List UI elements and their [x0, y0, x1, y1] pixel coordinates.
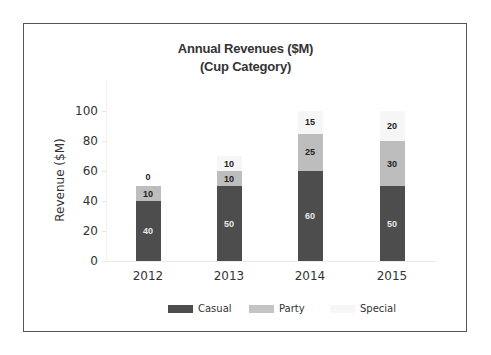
y-tick-mark: [102, 231, 106, 232]
y-tick-mark: [102, 261, 106, 262]
y-tick-mark: [102, 171, 106, 172]
legend-item-casual[interactable]: Casual: [168, 303, 232, 314]
legend-label: Party: [279, 303, 305, 314]
bar-segment-casual[interactable]: 50: [217, 186, 242, 261]
y-tick-mark: [102, 201, 106, 202]
legend-item-party[interactable]: Party: [249, 303, 305, 314]
legend-swatch-party: [249, 305, 274, 313]
legend-item-special[interactable]: Special: [330, 303, 396, 314]
legend-swatch-casual: [168, 305, 193, 313]
bar-segment-casual[interactable]: 50: [380, 186, 405, 261]
y-tick: 60: [60, 164, 98, 178]
bar-label-special: 0: [136, 172, 161, 182]
bar-segment-special[interactable]: 10: [217, 156, 242, 171]
x-tick: 2012: [118, 269, 178, 283]
legend-label: Special: [360, 303, 396, 314]
bar-segment-party[interactable]: 30: [380, 141, 405, 186]
plot-area: Revenue ($M) 0 20 40 60 80 100 40 10 0 5…: [0, 0, 491, 355]
y-tick: 40: [60, 194, 98, 208]
legend-label: Casual: [198, 303, 232, 314]
y-tick-mark: [102, 111, 106, 112]
y-axis-label: Revenue ($M): [53, 138, 67, 221]
bar-segment-casual[interactable]: 40: [136, 201, 161, 261]
bar-segment-special[interactable]: 20: [380, 111, 405, 141]
bar-segment-party[interactable]: 10: [136, 186, 161, 201]
bar-segment-special[interactable]: 15: [298, 111, 323, 134]
y-tick: 20: [60, 224, 98, 238]
x-tick: 2015: [362, 269, 422, 283]
x-tick: 2013: [199, 269, 259, 283]
y-tick: 0: [60, 254, 98, 268]
bar-segment-party[interactable]: 10: [217, 171, 242, 186]
x-tick: 2014: [280, 269, 340, 283]
y-tick: 100: [60, 104, 98, 118]
y-axis-line: [106, 80, 107, 262]
legend-swatch-special: [330, 305, 355, 313]
x-axis-line: [106, 261, 436, 262]
bar-segment-casual[interactable]: 60: [298, 171, 323, 261]
y-tick-mark: [102, 141, 106, 142]
bar-segment-party[interactable]: 25: [298, 134, 323, 172]
y-tick: 80: [60, 134, 98, 148]
